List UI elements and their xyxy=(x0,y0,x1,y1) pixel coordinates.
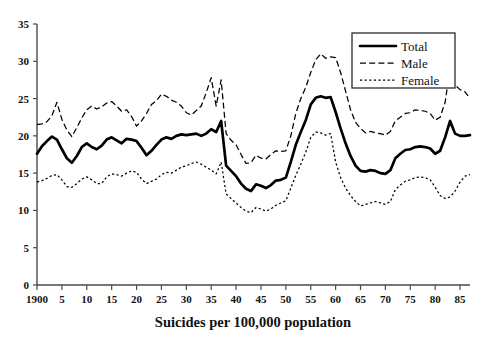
x-tick-label: 30 xyxy=(181,293,193,305)
x-tick-label: 40 xyxy=(231,293,243,305)
series-line-total xyxy=(37,96,470,191)
y-tick-label: 20 xyxy=(18,130,30,142)
x-tick-label: 45 xyxy=(255,293,267,305)
x-tick-label: 5 xyxy=(59,293,65,305)
x-tick-label: 10 xyxy=(81,293,93,305)
x-tick-label: 75 xyxy=(405,293,417,305)
x-tick-label: 15 xyxy=(106,293,118,305)
y-tick-label: 5 xyxy=(24,242,30,254)
legend-label-female: Female xyxy=(401,73,439,88)
x-tick-label: 25 xyxy=(156,293,168,305)
x-tick-label: 60 xyxy=(330,293,342,305)
x-tick-label: 1900 xyxy=(26,293,49,305)
x-tick-label: 50 xyxy=(280,293,292,305)
y-tick-label: 25 xyxy=(18,93,30,105)
chart-container: 05101520253035 1900510152025303540455055… xyxy=(0,0,487,339)
x-tick-label: 35 xyxy=(206,293,218,305)
y-axis: 05101520253035 xyxy=(18,18,37,291)
legend-label-male: Male xyxy=(401,56,428,71)
x-tick-label: 80 xyxy=(430,293,442,305)
x-tick-label: 55 xyxy=(305,293,317,305)
line-chart: 05101520253035 1900510152025303540455055… xyxy=(0,0,487,339)
y-tick-label: 0 xyxy=(24,279,30,291)
x-tick-label: 65 xyxy=(355,293,367,305)
chart-legend: TotalMaleFemale xyxy=(352,33,455,88)
y-tick-label: 15 xyxy=(18,167,30,179)
y-tick-label: 30 xyxy=(18,55,30,67)
x-tick-label: 85 xyxy=(455,293,467,305)
y-tick-label: 10 xyxy=(18,204,30,216)
x-axis-title: Suicides per 100,000 population xyxy=(155,314,351,330)
legend-label-total: Total xyxy=(401,39,428,54)
y-tick-label: 35 xyxy=(18,18,30,30)
x-tick-label: 70 xyxy=(380,293,392,305)
x-axis: 1900510152025303540455055606570758085 xyxy=(26,285,470,305)
x-tick-label: 20 xyxy=(131,293,143,305)
